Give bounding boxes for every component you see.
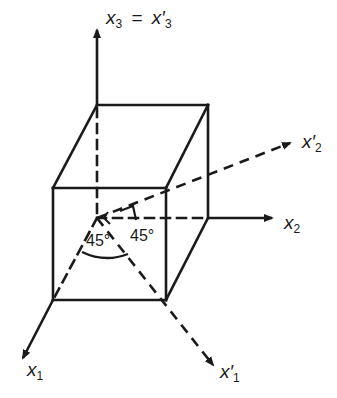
x2-prime-label: x′2 [302,132,322,154]
angle-label-right: 45° [130,228,154,244]
cube-edges [53,105,208,300]
angle-arc-left [82,252,128,258]
x1-prime-label: x′1 [220,362,240,384]
cube-diagram [0,0,337,398]
x2-prime-axis [97,143,290,218]
x3-label: x3 = x′3 [106,8,172,30]
angle-label-left: 45° [86,233,110,249]
x1-label: x1 [27,360,43,382]
x2-label: x2 [284,213,300,235]
x1-axis [23,300,53,358]
